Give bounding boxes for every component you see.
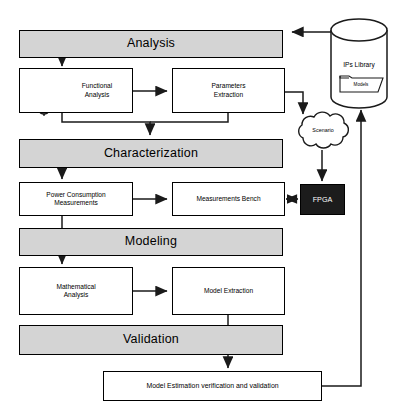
conn-estimation-to-ipslibrary xyxy=(322,110,361,386)
process-box-measurements-bench[interactable]: Measurements Bench xyxy=(172,182,285,216)
phase-band-characterization-label: Characterization xyxy=(104,146,198,162)
process-box-mathematical-analysis[interactable]: Mathematical Analysis xyxy=(19,267,133,315)
models-folder-label: Models xyxy=(343,82,379,87)
power-consumption-label-line1: Power Consumption xyxy=(46,191,105,199)
process-box-model-estimation[interactable]: Model Estimation verification and valida… xyxy=(103,371,322,401)
phase-band-validation-label: Validation xyxy=(123,332,179,348)
phase-band-analysis[interactable]: Analysis xyxy=(19,30,283,58)
parameters-extraction-label-line2: Extraction xyxy=(211,91,245,99)
model-extraction-label: Model Extraction xyxy=(204,287,253,295)
fpga-node[interactable]: FPGA xyxy=(300,184,345,215)
conn-parameters-to-merge xyxy=(150,113,228,122)
process-box-parameters-extraction[interactable]: Parameters Extraction xyxy=(172,68,285,113)
measurements-bench-label: Measurements Bench xyxy=(196,195,260,203)
functional-analysis-label-line2: Analysis xyxy=(82,91,112,99)
phase-band-modeling[interactable]: Modeling xyxy=(19,228,283,256)
model-estimation-label: Model Estimation verification and valida… xyxy=(146,382,278,391)
parameters-extraction-label-line1: Parameters xyxy=(211,82,245,90)
mathematical-analysis-label-line2: Analysis xyxy=(56,291,95,299)
process-box-power-consumption-measurements[interactable]: Power Consumption Measurements xyxy=(19,182,133,216)
process-box-model-extraction[interactable]: Model Extraction xyxy=(172,267,285,315)
mathematical-analysis-label-line1: Mathematical xyxy=(56,283,95,291)
phase-band-modeling-label: Modeling xyxy=(125,234,177,250)
conn-parameters-to-scenario xyxy=(285,92,303,114)
diagram-canvas: Analysis Characterization Modeling Valid… xyxy=(0,0,408,416)
fpga-label: FPGA xyxy=(313,195,333,204)
power-consumption-label-line2: Measurements xyxy=(46,199,105,207)
phase-band-validation[interactable]: Validation xyxy=(19,325,283,355)
phase-band-analysis-label: Analysis xyxy=(127,36,175,52)
scenario-label: Scenario xyxy=(295,127,351,133)
ips-library-label: IPs Library xyxy=(331,61,387,68)
phase-band-characterization[interactable]: Characterization xyxy=(19,139,283,168)
conn-functional-to-characterization xyxy=(62,113,150,135)
process-box-functional-analysis[interactable]: Functional Analysis xyxy=(19,68,133,113)
functional-analysis-label-line1: Functional xyxy=(82,82,112,90)
